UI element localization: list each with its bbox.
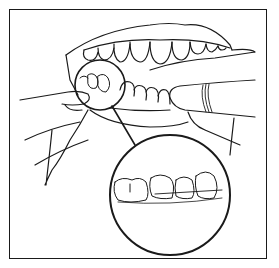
floss-strand-right	[230, 118, 234, 155]
lower-gum-line	[110, 108, 170, 111]
flossing-illustration	[0, 0, 279, 268]
inset-floss	[155, 190, 222, 194]
inset-teeth	[114, 172, 217, 202]
source-teeth	[80, 74, 110, 92]
lip-corner	[66, 55, 78, 95]
left-hand-lower	[25, 122, 88, 165]
upper-gum-line	[84, 40, 230, 50]
lower-teeth	[120, 82, 170, 104]
floss-wrap	[202, 84, 212, 112]
floss-strand-left	[45, 110, 88, 185]
magnify-source-circle	[75, 60, 125, 110]
right-thumb	[170, 80, 255, 98]
magnify-inset-circle	[110, 135, 230, 255]
lower-lip	[90, 110, 188, 127]
